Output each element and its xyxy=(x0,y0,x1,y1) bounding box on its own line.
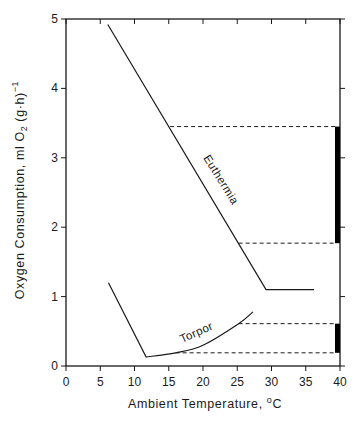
range-bar xyxy=(335,127,340,244)
x-tick-label: 40 xyxy=(333,375,347,389)
euthermia-label: Euthermia xyxy=(201,153,241,207)
x-axis-label: Ambient Temperature, oC xyxy=(128,395,282,411)
torpor-label: Torpor xyxy=(178,320,215,345)
range-bars xyxy=(335,127,340,353)
x-tick-label: 10 xyxy=(128,375,142,389)
plot-frame xyxy=(66,19,340,366)
y-tick-label: 0 xyxy=(51,359,58,373)
oxygen-consumption-chart: 0510152025303540 012345 Euthermia Torpor… xyxy=(0,0,360,425)
torpor-line xyxy=(108,283,253,357)
plot-border xyxy=(66,19,340,366)
x-tick-label: 0 xyxy=(63,375,70,389)
data-series xyxy=(108,25,314,357)
y-tick-label: 2 xyxy=(51,220,58,234)
y-tick-label: 4 xyxy=(51,81,58,95)
x-tick-label: 30 xyxy=(265,375,279,389)
y-axis-ticks: 012345 xyxy=(51,12,345,373)
x-tick-label: 25 xyxy=(231,375,245,389)
range-bar xyxy=(335,324,340,353)
reference-dashed-lines xyxy=(170,127,336,353)
x-tick-label: 5 xyxy=(97,375,104,389)
y-tick-label: 3 xyxy=(51,151,58,165)
y-axis-label: Oxygen Consumption, ml O2 (g·h)−1 xyxy=(10,81,29,299)
x-tick-label: 15 xyxy=(162,375,176,389)
x-tick-label: 35 xyxy=(299,375,313,389)
y-tick-label: 5 xyxy=(51,12,58,26)
y-tick-label: 1 xyxy=(51,290,58,304)
x-tick-label: 20 xyxy=(196,375,210,389)
